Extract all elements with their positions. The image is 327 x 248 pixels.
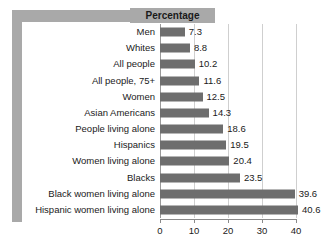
bar <box>160 141 226 150</box>
category-label: Hispanic women living alone <box>35 205 155 215</box>
bar-row: Women living alone20.4 <box>0 153 327 169</box>
bar-value-label: 39.6 <box>299 189 318 199</box>
bar <box>160 28 185 37</box>
x-axis-tick-20 <box>228 219 229 223</box>
category-label: Blacks <box>127 173 155 183</box>
category-label: Women <box>122 92 155 102</box>
bar-value-label: 12.5 <box>207 92 226 102</box>
chart-title-band: Percentage <box>130 8 215 23</box>
bar <box>160 44 190 53</box>
bar-value-label: 11.6 <box>203 76 221 86</box>
bar-value-label: 10.2 <box>199 60 218 70</box>
bar <box>160 125 223 134</box>
bar-value-label: 18.6 <box>227 124 246 134</box>
x-axis-tick-label: 40 <box>291 226 302 236</box>
category-label: All people <box>113 60 155 70</box>
bar-value-label: 19.5 <box>230 140 249 150</box>
category-label: Hispanics <box>114 140 155 150</box>
bar-row: Black women living alone39.6 <box>0 186 327 202</box>
bar <box>160 92 203 101</box>
bar-row: Hispanic women living alone40.6 <box>0 202 327 218</box>
bar <box>160 108 209 117</box>
chart-title: Percentage <box>146 11 200 21</box>
bar <box>160 189 295 198</box>
category-label: Women living alone <box>72 157 155 167</box>
x-axis-tick-30 <box>262 219 263 223</box>
x-axis-tick-10 <box>194 219 195 223</box>
bar-value-label: 20.4 <box>233 157 252 167</box>
category-label: Men <box>137 27 155 37</box>
bar-value-label: 23.5 <box>244 173 263 183</box>
bar-row: All people, 75+11.6 <box>0 73 327 89</box>
category-label: Black women living alone <box>48 189 155 199</box>
x-axis-tick-label: 30 <box>257 226 268 236</box>
x-axis-tick-label: 0 <box>157 226 162 236</box>
x-axis-tick-0 <box>160 219 161 223</box>
percentage-bar-chart: Percentage Men7.3Whites8.8All people10.2… <box>0 0 327 248</box>
bar-value-label: 7.3 <box>189 27 202 37</box>
bar-row: People living alone18.6 <box>0 121 327 137</box>
bar <box>160 205 298 214</box>
bar <box>160 173 240 182</box>
x-axis-tick-40 <box>296 219 297 223</box>
category-label: Whites <box>126 43 155 53</box>
category-label: Asian Americans <box>84 108 155 118</box>
bar-row: Hispanics19.5 <box>0 137 327 153</box>
bar-value-label: 14.3 <box>213 108 232 118</box>
bar-row: Men7.3 <box>0 24 327 40</box>
bar-rows: Men7.3Whites8.8All people10.2All people,… <box>0 24 327 218</box>
bar-row: All people10.2 <box>0 56 327 72</box>
bar <box>160 60 195 69</box>
bar-value-label: 40.6 <box>302 205 321 215</box>
bar <box>160 157 229 166</box>
bar-value-label: 8.8 <box>194 43 207 53</box>
category-label: All people, 75+ <box>92 76 155 86</box>
x-axis-tick-label: 20 <box>223 226 234 236</box>
bar-row: Women12.5 <box>0 89 327 105</box>
bar <box>160 76 199 85</box>
bar-row: Asian Americans14.3 <box>0 105 327 121</box>
x-axis-tick-label: 10 <box>189 226 200 236</box>
category-label: People living alone <box>75 124 155 134</box>
bar-row: Whites8.8 <box>0 40 327 56</box>
bar-row: Blacks23.5 <box>0 170 327 186</box>
